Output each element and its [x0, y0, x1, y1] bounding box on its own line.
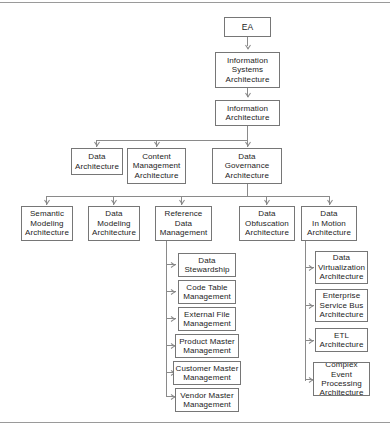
node-etl-architecture[interactable]: ETL Architecture — [315, 328, 368, 352]
frame-bottom-divider — [0, 422, 390, 423]
node-ea[interactable]: EA — [224, 17, 271, 37]
node-data-stewardship[interactable]: Data Stewardship — [178, 253, 236, 277]
connector-ea-isa — [247, 37, 248, 46]
connector-level4-cma — [156, 140, 157, 147]
node-complex-event-processing-architecture[interactable]: Complex Event Processing Architecture — [313, 362, 370, 396]
connector-rdm-ctm — [166, 291, 176, 292]
node-customer-master-management[interactable]: Customer Master Management — [173, 361, 241, 385]
connector-dima-dva — [305, 267, 314, 268]
connector-dga-drop — [247, 184, 248, 196]
connector-level5-rdm — [181, 196, 182, 205]
frame-top-divider — [0, 2, 390, 3]
connector-dima-etla — [305, 340, 314, 341]
connector-isa-ia — [247, 88, 248, 97]
connector-level5-sma — [46, 196, 47, 205]
connector-level4-dga — [247, 140, 248, 147]
node-information-architecture[interactable]: Information Architecture — [215, 100, 280, 126]
node-data-modeling-architecture[interactable]: Data Modeling Architecture — [88, 206, 140, 241]
node-content-management-architecture[interactable]: Content Management Architecture — [127, 148, 186, 184]
node-data-virtualization-architecture[interactable]: Data Virtualization Architecture — [315, 251, 368, 284]
node-vendor-master-management[interactable]: Vendor Master Management — [175, 388, 239, 412]
node-semantic-modeling-architecture[interactable]: Semantic Modeling Architecture — [21, 206, 73, 241]
node-reference-data-management[interactable]: Reference Data Management — [155, 206, 212, 241]
node-code-table-management[interactable]: Code Table Management — [178, 280, 236, 304]
diagram-canvas: EA Information Systems Architecture Info… — [0, 0, 390, 431]
node-external-file-management[interactable]: External File Management — [178, 307, 236, 331]
connector-level5-dima — [329, 196, 330, 205]
connector-rdm-ds — [166, 264, 176, 265]
node-information-systems-architecture[interactable]: Information Systems Architecture — [215, 52, 280, 88]
node-enterprise-service-bus-architecture[interactable]: Enterprise Service Bus Architecture — [315, 289, 368, 322]
connector-level4-bus — [96, 140, 248, 141]
connector-level5-bus — [46, 196, 329, 197]
node-product-master-management[interactable]: Product Master Management — [175, 334, 239, 358]
connector-rdm-efm — [166, 318, 176, 319]
node-data-governance-architecture[interactable]: Data Governance Architecture — [212, 148, 282, 184]
node-data-obfuscation-architecture[interactable]: Data Obfuscation Architecture — [239, 206, 295, 241]
node-data-architecture[interactable]: Data Architecture — [71, 148, 123, 175]
connector-level5-doa — [266, 196, 267, 205]
connector-level5-dma — [113, 196, 114, 205]
connector-dima-spine — [305, 241, 306, 381]
node-data-in-motion-architecture[interactable]: Data In Motion Architecture — [301, 206, 357, 241]
connector-level4-da — [96, 140, 97, 147]
connector-ia-drop — [247, 126, 248, 140]
arrowhead-isa — [244, 45, 251, 52]
connector-dima-esba — [305, 305, 314, 306]
